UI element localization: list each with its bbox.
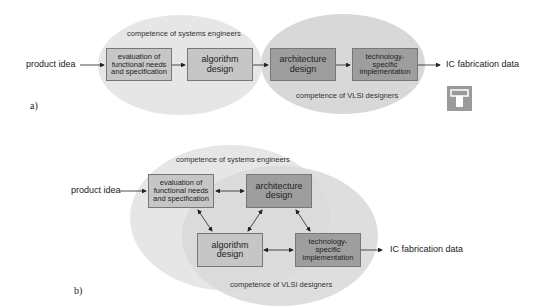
diagram-canvas — [0, 0, 544, 307]
output-label-a: IC fabrication data — [446, 59, 519, 69]
panel-label-a: a) — [30, 100, 38, 111]
box-algorithm-a: algorithm design — [187, 48, 253, 81]
box-evaluation-a: evaluation of functional needs and speci… — [106, 48, 172, 81]
input-label-a: product idea — [26, 59, 76, 69]
box-evaluation-b: evaluation of functional needs and speci… — [148, 174, 214, 208]
box-technology-a: technology- specific implementation — [352, 48, 418, 81]
vlsi-region-label-b: competence of VLSI designers — [230, 280, 332, 289]
box-algorithm-b: algorithm design — [197, 233, 263, 267]
box-technology-b: technology- specific implementation — [295, 233, 361, 267]
box-architecture-a: architecture design — [270, 48, 336, 81]
systems-region-label-b: competence of systems engineers — [176, 155, 290, 164]
output-label-b: IC fabrication data — [390, 244, 463, 254]
box-architecture-b: architecture design — [246, 174, 312, 208]
chip-pictogram-icon — [447, 86, 472, 111]
panel-label-b: b) — [74, 285, 82, 296]
vlsi-region-label-a: competence of VLSI designers — [296, 91, 398, 100]
input-label-b: product idea — [71, 185, 121, 195]
systems-region-label-a: competence of systems engineers — [127, 29, 241, 38]
